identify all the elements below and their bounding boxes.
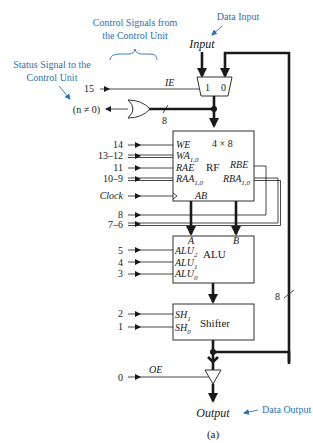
rba-subscript: 1,0 [241, 179, 250, 187]
we-label: WE [176, 139, 190, 150]
alu-name-label: ALU [203, 248, 226, 260]
ab-label: AB [194, 190, 207, 201]
figure-caption: (a) [207, 428, 220, 441]
alu2-subscript: 2 [194, 251, 198, 259]
data-input-annotation: Data Input [217, 11, 260, 22]
control-signals-brace [110, 49, 157, 60]
oe-bit-label: 0 [118, 372, 123, 383]
control-signals-annotation-line1: Control Signals from [93, 17, 178, 28]
or-bus-width: 8 [162, 115, 167, 126]
input-mux [197, 77, 232, 96]
rba-bit-label: 7–6 [108, 219, 123, 230]
sh1-label: SH [175, 309, 188, 320]
arrow-icon [135, 165, 141, 171]
raa-bit-label: 10–9 [103, 173, 123, 184]
alu2-bit-label: 5 [118, 245, 123, 256]
arrow-icon [135, 247, 141, 253]
shifter-name-label: Shifter [200, 317, 230, 329]
status-signal-label: (n ≠ 0) [73, 104, 100, 116]
rba-label: RBA [222, 173, 242, 184]
alu-port-b-label: B [233, 235, 239, 246]
rbe-label: RBE [229, 159, 248, 170]
arrow-icon [135, 271, 141, 277]
arrow-icon [135, 221, 141, 227]
data-output-annotation-arrow [244, 410, 258, 413]
alu0-bit-label: 3 [118, 268, 123, 279]
wa-label: WA [176, 150, 191, 161]
zero-detect-or-gate [128, 100, 150, 118]
rf-input-we: 14 WE [113, 139, 190, 150]
arrow-icon [135, 374, 141, 380]
data-output-annotation: Data Output [262, 404, 311, 415]
mux-input-0-label: 0 [221, 82, 226, 93]
sh1-bit-label: 2 [118, 308, 123, 319]
feedback-bus-width: 8 [275, 291, 280, 302]
data-input-annotation-arrow [212, 26, 222, 35]
wa-bit-label: 13–12 [98, 150, 123, 161]
ie-arrow-icon [104, 86, 110, 92]
clock-label: Clock [100, 190, 124, 201]
arrow-icon [135, 193, 141, 199]
alu1-label: ALU [174, 257, 195, 268]
status-signal-annotation-line1: Status Signal to the [13, 59, 91, 70]
control-signals-annotation-line2: the Control Unit [102, 30, 168, 41]
alu1-bit-label: 4 [118, 257, 123, 268]
arrow-icon [135, 324, 141, 330]
arrow-icon [135, 259, 141, 265]
arrow-icon [135, 212, 141, 218]
sh0-subscript: 0 [187, 328, 191, 336]
arrow-icon [135, 153, 141, 159]
rf-input-rae: 11 RAE [113, 162, 194, 173]
ie-label: IE [164, 77, 174, 88]
output-label: Output [196, 406, 230, 420]
rae-label: RAE [175, 162, 194, 173]
rf-size-label: 4 × 8 [212, 138, 233, 149]
sh0-label: SH [175, 322, 188, 333]
sh0-bit-label: 1 [118, 321, 123, 332]
arrow-icon [135, 311, 141, 317]
mux-input-1-label: 1 [205, 82, 210, 93]
raa-subscript: 1,0 [194, 179, 203, 187]
ie-bit-label: 15 [84, 83, 94, 94]
datapath-diagram: Control Signals from the Control Unit St… [0, 0, 313, 443]
arrow-icon [135, 142, 141, 148]
alu2-label: ALU [174, 245, 195, 256]
oe-label: OE [149, 364, 162, 375]
alu0-label: ALU [174, 268, 195, 279]
raa-label: RAA [175, 173, 195, 184]
arrow-icon [135, 176, 141, 182]
alu1-subscript: 1 [194, 263, 198, 271]
sh1-subscript: 1 [187, 315, 191, 323]
input-label: Input [188, 37, 215, 51]
feedback-bus-lower [213, 352, 289, 362]
status-signal-annotation-line2: Control Unit [27, 72, 78, 83]
status-annotation-arrow [59, 86, 70, 99]
alu0-subscript: 0 [194, 274, 198, 282]
we-bit-label: 14 [113, 139, 123, 150]
rf-name-label: RF [206, 161, 219, 173]
rae-bit-label: 11 [113, 162, 123, 173]
rf-input-clock: Clock [100, 190, 177, 201]
